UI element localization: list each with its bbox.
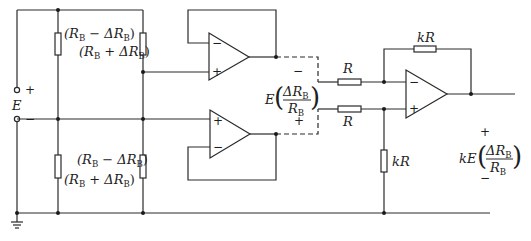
kr-feedback-right-wire (436, 49, 471, 94)
node-dot (56, 8, 60, 12)
opamp3-noninv-sign: + (409, 102, 419, 116)
node-dot (141, 211, 145, 215)
opamp1-noninv-sign: + (212, 65, 222, 79)
output-voltage-label: + kE ( ΔRB RB ) − (459, 125, 522, 185)
opamp1-inv-sign: − (212, 36, 222, 50)
resistor-r-top (338, 79, 361, 85)
output-top-sign: + (480, 125, 490, 139)
diff-close-paren: ) (310, 82, 320, 112)
diff-bottom-sign: + (294, 114, 304, 128)
output-prefix: kE (459, 151, 477, 166)
source-label: E (11, 98, 22, 113)
opamp2-inv-sign: − (213, 140, 223, 154)
source-plus-sign: + (25, 83, 35, 97)
node-dot (382, 211, 386, 215)
node-dot (274, 55, 278, 59)
wires (11, 10, 515, 228)
resistor-bottom-left-label: (RB + ΔRB) (64, 172, 135, 189)
opamp2-noninv-sign: + (213, 114, 223, 128)
node-dot (56, 211, 60, 215)
node-dot (469, 92, 473, 96)
kr-ground-label: kR (392, 154, 410, 169)
opamp3-inv-sign: − (409, 75, 419, 89)
output-numerator: ΔRB (485, 143, 511, 160)
resistor-kr-feedback (414, 46, 436, 52)
source-plus-terminal (14, 87, 19, 92)
resistor-r-bottom (338, 106, 361, 112)
source-minus-sign: − (25, 112, 35, 126)
circuit-diagram: + E − (RB − ΔRB) (RB + ΔRB) (RB − ΔRB) (… (0, 0, 531, 241)
node-dot (274, 132, 278, 136)
r-top-label: R (342, 61, 353, 76)
resistor-top-left (55, 33, 61, 55)
opamps (209, 33, 447, 158)
resistor-top-left-label: (RB − ΔRB) (64, 26, 135, 43)
resistor-bottom-right-label: (RB − ΔRB) (77, 152, 148, 169)
node-dot (141, 117, 145, 121)
resistor-bottom-left (55, 155, 61, 178)
kr-feedback-label: kR (417, 30, 435, 45)
resistor-top-right-label: (RB + ΔRB) (79, 44, 150, 61)
resistor-kr-ground (381, 150, 387, 172)
diff-top-sign: − (293, 64, 303, 78)
diff-numerator: ΔRB (282, 84, 308, 101)
output-close-paren: ) (512, 141, 522, 171)
output-denominator: RB (489, 160, 506, 177)
node-dot (382, 80, 386, 84)
output-bottom-sign: − (480, 171, 490, 185)
node-dot (382, 107, 386, 111)
node-dot (141, 70, 145, 74)
node-dot (15, 211, 19, 215)
r-bottom-label: R (342, 114, 353, 129)
differential-voltage-label: − E ( ΔRB RB ) + (264, 64, 320, 128)
